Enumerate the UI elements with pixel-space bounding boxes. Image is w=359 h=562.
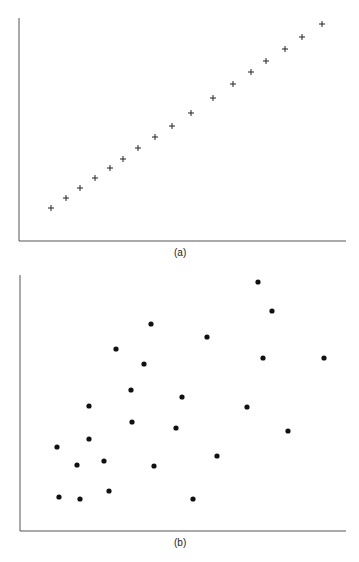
data-point-dot bbox=[113, 346, 118, 351]
data-point-plus bbox=[120, 156, 126, 162]
data-point-plus bbox=[63, 195, 69, 201]
data-point-dot bbox=[151, 463, 156, 468]
data-point-dot bbox=[141, 361, 146, 366]
data-point-plus bbox=[263, 58, 269, 64]
data-point-dot bbox=[214, 453, 219, 458]
data-point-dot bbox=[77, 496, 82, 501]
data-point-plus bbox=[319, 21, 325, 27]
data-point-plus bbox=[77, 185, 83, 191]
data-point-dot bbox=[106, 488, 111, 493]
data-point-dot bbox=[101, 458, 106, 463]
data-point-plus bbox=[107, 165, 113, 171]
data-point-dot bbox=[56, 494, 61, 499]
data-point-dot bbox=[255, 279, 260, 284]
data-point-dot bbox=[129, 419, 134, 424]
data-point-plus bbox=[152, 134, 158, 140]
data-point-dot bbox=[86, 436, 91, 441]
data-point-dot bbox=[74, 462, 79, 467]
data-point-dot bbox=[86, 403, 91, 408]
data-point-plus bbox=[135, 145, 141, 151]
panel-b-label: (b) bbox=[174, 537, 186, 548]
data-point-plus bbox=[230, 81, 236, 87]
data-point-plus bbox=[248, 69, 254, 75]
data-point-dot bbox=[54, 444, 59, 449]
data-point-dot bbox=[173, 425, 178, 430]
data-point-plus bbox=[188, 110, 194, 116]
data-point-dot bbox=[285, 428, 290, 433]
data-point-dot bbox=[128, 387, 133, 392]
data-point-plus bbox=[92, 175, 98, 181]
data-point-dot bbox=[321, 355, 326, 360]
data-point-dot bbox=[179, 394, 184, 399]
figure-canvas bbox=[0, 0, 359, 562]
data-point-dot bbox=[269, 308, 274, 313]
data-point-dot bbox=[260, 355, 265, 360]
data-point-dot bbox=[190, 496, 195, 501]
data-point-plus bbox=[299, 34, 305, 40]
data-point-dot bbox=[148, 321, 153, 326]
data-point-dot bbox=[244, 404, 249, 409]
data-point-plus bbox=[210, 95, 216, 101]
data-point-plus bbox=[48, 205, 54, 211]
data-point-plus bbox=[169, 123, 175, 129]
data-point-dot bbox=[204, 334, 209, 339]
data-point-plus bbox=[282, 46, 288, 52]
panel-a-label: (a) bbox=[174, 247, 186, 258]
